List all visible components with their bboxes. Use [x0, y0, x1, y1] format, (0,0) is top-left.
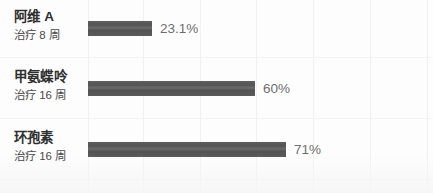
category-label-group: 环孢素 治疗 16 周 — [14, 129, 86, 164]
bar-value-label: 60% — [263, 80, 290, 97]
bar — [88, 21, 152, 36]
bar-track: 23.1% — [88, 21, 429, 37]
category-label: 阿维 A — [14, 8, 86, 25]
category-label: 甲氨蝶呤 — [14, 68, 86, 85]
bar-track: 60% — [88, 81, 429, 97]
bar — [88, 81, 255, 96]
bar — [88, 142, 286, 157]
bar-value-label: 71% — [294, 141, 321, 158]
category-sublabel: 治疗 16 周 — [14, 87, 86, 103]
bar-track: 71% — [88, 142, 429, 158]
bar-row: 甲氨蝶呤 治疗 16 周 60% — [0, 68, 433, 128]
category-label-group: 阿维 A 治疗 8 周 — [14, 8, 86, 43]
bar-value-label: 23.1% — [160, 20, 198, 37]
bar-row: 环孢素 治疗 16 周 71% — [0, 129, 433, 189]
bar-rows: 阿维 A 治疗 8 周 23.1% 甲氨蝶呤 治疗 16 周 60% 环孢素 — [0, 0, 433, 193]
bar-row: 阿维 A 治疗 8 周 23.1% — [0, 8, 433, 68]
category-label-group: 甲氨蝶呤 治疗 16 周 — [14, 68, 86, 103]
category-sublabel: 治疗 16 周 — [14, 148, 86, 164]
horizontal-bar-chart: 阿维 A 治疗 8 周 23.1% 甲氨蝶呤 治疗 16 周 60% 环孢素 — [0, 0, 433, 193]
category-sublabel: 治疗 8 周 — [14, 27, 86, 43]
category-label: 环孢素 — [14, 129, 86, 146]
